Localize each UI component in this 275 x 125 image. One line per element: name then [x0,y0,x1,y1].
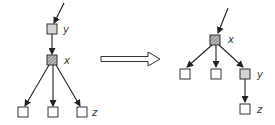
node-leaf1 [18,107,28,117]
incoming-edge [54,3,64,23]
label-z: z [256,104,263,115]
label-x: x [63,55,70,66]
edge-x-z [56,65,80,106]
left-tree: y x z [18,3,98,118]
node-y [47,24,57,34]
node-x [210,35,220,45]
node-leaf2 [48,107,58,117]
edge-x-y [219,45,243,67]
right-tree: x y z [180,8,264,115]
node-leaf1 [180,69,190,79]
tree-rotation-diagram: y x z x y z [0,0,275,125]
node-leaf2 [211,69,221,79]
right-arrow-icon [101,52,160,66]
node-z [240,104,250,114]
label-z: z [91,107,98,118]
node-y [240,69,250,79]
edge-x-leaf1 [25,65,49,106]
label-y: y [62,24,70,35]
incoming-edge [218,8,228,33]
label-y: y [256,69,264,80]
edge-x-leaf1 [187,45,212,67]
node-z [77,107,87,117]
node-x [47,55,57,65]
label-x: x [227,34,234,45]
